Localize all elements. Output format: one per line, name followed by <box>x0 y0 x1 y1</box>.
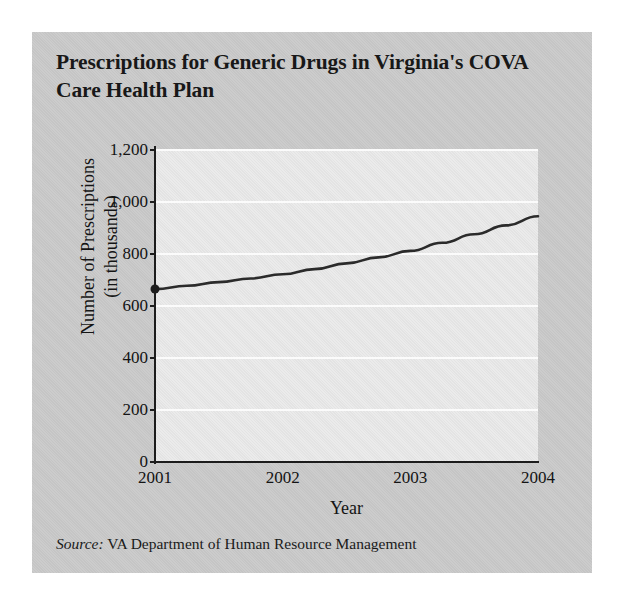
page-bleed-text <box>18 590 21 606</box>
data-point-marker-2001 <box>151 285 160 294</box>
scanned-page: Prescriptions for Generic Drugs in Virgi… <box>0 0 623 612</box>
y-tick-mark-1,000 <box>150 201 156 203</box>
y-tick-label-400: 400 <box>123 348 149 368</box>
y-tick-label-600: 600 <box>123 296 149 316</box>
y-axis-tick-labels: 02004006008001,0001,200 <box>80 150 148 462</box>
x-tick-label-2003: 2003 <box>393 468 427 488</box>
y-tick-mark-400 <box>150 357 156 359</box>
x-tick-label-2001: 2001 <box>138 468 172 488</box>
series-line-chart <box>155 150 538 462</box>
x-tick-label-2002: 2002 <box>266 468 300 488</box>
y-tick-label-800: 800 <box>123 244 149 264</box>
y-tick-mark-600 <box>150 305 156 307</box>
source-label: Source: <box>56 535 104 552</box>
x-tick-label-2004: 2004 <box>521 468 555 488</box>
y-tick-mark-0 <box>150 461 156 463</box>
y-tick-label-1,000: 1,000 <box>110 192 148 212</box>
x-axis-title: Year <box>155 498 538 519</box>
y-tick-mark-200 <box>150 409 156 411</box>
y-tick-mark-800 <box>150 253 156 255</box>
plot-wrapper <box>155 150 538 462</box>
y-tick-label-1,200: 1,200 <box>110 140 148 160</box>
y-tick-label-200: 200 <box>123 400 149 420</box>
figure-container: Prescriptions for Generic Drugs in Virgi… <box>32 32 592 573</box>
y-tick-mark-1,200 <box>150 149 156 151</box>
source-text: VA Department of Human Resource Manageme… <box>107 535 416 552</box>
source-note: Source: VA Department of Human Resource … <box>56 535 416 553</box>
series-path-prescriptions <box>155 216 538 289</box>
chart-title: Prescriptions for Generic Drugs in Virgi… <box>56 49 556 105</box>
x-axis-tick-labels: 2001200220032004 <box>155 468 538 492</box>
